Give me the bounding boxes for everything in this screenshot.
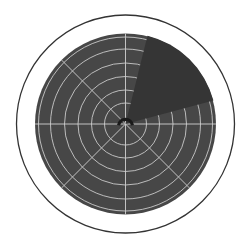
radar-display [0,0,247,250]
radar-scope [0,0,247,250]
